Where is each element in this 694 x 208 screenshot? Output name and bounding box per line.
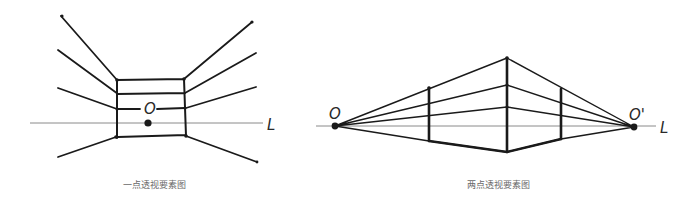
vanishing-point-dot: [144, 119, 151, 126]
one-point-diagram: O L: [30, 14, 275, 163]
caption-two-point: 两点透视要素图: [467, 178, 530, 191]
horizon-label: L: [267, 116, 275, 134]
vanishing-point-right-label: O': [629, 106, 645, 124]
right-receding-lines: [184, 22, 257, 162]
vanishing-point-right-dot: [631, 124, 638, 131]
two-point-diagram: O O' L: [316, 56, 668, 152]
left-receding-lines: [58, 16, 118, 157]
perspective-figures: O L O O' L: [0, 0, 694, 208]
base-edges: [429, 139, 561, 152]
right-vanishing-rays: [507, 58, 634, 152]
horizon-label: L: [660, 119, 668, 137]
vanishing-point-left-label: O: [329, 105, 341, 123]
left-vanishing-rays: [335, 58, 507, 152]
caption-one-point: 一点透视要素图: [123, 178, 186, 191]
vanishing-point-label: O: [144, 100, 156, 118]
vertical-edges: [429, 58, 561, 152]
vanishing-point-left-dot: [332, 123, 339, 130]
